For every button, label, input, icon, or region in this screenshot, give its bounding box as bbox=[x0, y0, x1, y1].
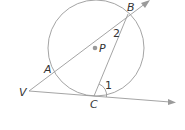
label-p: P bbox=[99, 42, 106, 55]
center-point-p bbox=[93, 46, 98, 51]
label-b: B bbox=[127, 1, 135, 14]
arrowhead-icon bbox=[168, 99, 176, 105]
label-a: A bbox=[43, 63, 52, 76]
label-v: V bbox=[19, 86, 28, 99]
label-angle-2: 2 bbox=[113, 27, 120, 40]
tangent-ray-vc bbox=[29, 91, 170, 102]
secant-ray-vb bbox=[29, 3, 146, 91]
geometry-diagram: B A V C P 2 1 bbox=[0, 0, 185, 130]
label-c: C bbox=[90, 98, 98, 111]
arrowhead-icon bbox=[141, 0, 150, 8]
label-angle-1: 1 bbox=[105, 79, 112, 92]
